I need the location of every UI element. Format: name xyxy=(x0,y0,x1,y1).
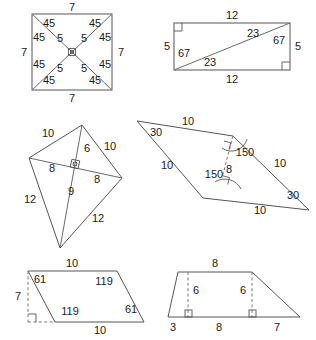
figure-trapezoid-with-heights: 8 6 6 3 8 7 xyxy=(168,257,300,333)
square-angle-bottom-right-b-label: 45 xyxy=(89,74,101,86)
parallelogram-angle-top-right-label: 119 xyxy=(95,275,113,287)
trapezoid-height-right-label: 6 xyxy=(240,284,246,296)
figure-parallelogram-with-height: 10 10 7 61 119 119 61 xyxy=(15,257,144,336)
kite-side-upper-right-label: 10 xyxy=(104,140,116,152)
rhombus-side-right-label: 10 xyxy=(274,157,286,169)
kite-diagonal-upper-label: 6 xyxy=(84,142,90,154)
figure-kite-with-diagonals: 10 10 12 12 6 9 8 8 xyxy=(24,125,122,248)
kite-diagonal-right-label: 8 xyxy=(94,173,100,185)
square-angle-top-left-a-label: 45 xyxy=(43,17,55,29)
rectangle-angle-bottom-upper-label: 67 xyxy=(178,47,190,59)
square-side-bottom-label: 7 xyxy=(69,92,75,104)
square-angle-bottom-left-b-label: 45 xyxy=(43,74,55,86)
parallelogram-side-top-label: 10 xyxy=(66,257,78,269)
square-angle-bottom-right-a-label: 45 xyxy=(99,58,111,70)
rhombus-side-bottom-label: 10 xyxy=(254,204,266,216)
square-half-diagonal-top-right-label: 5 xyxy=(81,32,87,44)
rectangle-side-top-label: 12 xyxy=(226,9,238,21)
rhombus-side-top-label: 10 xyxy=(182,115,194,127)
square-half-diagonal-bottom-left-label: 5 xyxy=(57,62,63,74)
trapezoid-side-top-label: 8 xyxy=(212,257,218,269)
rhombus-side-left-label: 10 xyxy=(161,159,173,171)
parallelogram-side-bottom-label: 10 xyxy=(94,324,106,336)
trapezoid-base-right-segment-label: 7 xyxy=(274,321,280,333)
square-half-diagonal-top-left-label: 5 xyxy=(57,32,63,44)
trapezoid-base-middle-segment-label: 8 xyxy=(216,321,222,333)
rhombus-height-label: 8 xyxy=(226,163,232,175)
square-half-diagonal-bottom-right-label: 5 xyxy=(81,62,87,74)
square-angle-top-right-a-label: 45 xyxy=(89,17,101,29)
square-angle-top-right-b-label: 45 xyxy=(99,31,111,43)
figure-rhombus-with-height: 10 10 10 10 30 30 150 150 8 xyxy=(137,115,309,216)
rhombus-angle-right-label: 30 xyxy=(287,189,299,201)
geometry-figures-svg: 7 7 7 7 45 45 45 45 5 5 5 5 45 45 45 45 … xyxy=(0,0,316,340)
square-side-top-label: 7 xyxy=(69,1,75,13)
figure-square-with-diagonals: 7 7 7 7 45 45 45 45 5 5 5 5 45 45 45 45 xyxy=(21,1,124,104)
square-angle-top-left-b-label: 45 xyxy=(33,31,45,43)
rectangle-angle-top-lower-label: 67 xyxy=(273,34,285,46)
figure-rectangle-with-diagonal: 12 12 5 5 23 67 67 23 xyxy=(164,9,301,85)
rhombus-angle-left-label: 30 xyxy=(150,126,162,138)
kite-diagonal-left-label: 8 xyxy=(49,162,55,174)
rectangle-angle-bottom-lower-label: 23 xyxy=(204,56,216,68)
rectangle-side-bottom-label: 12 xyxy=(226,73,238,85)
worksheet-canvas: 7 7 7 7 45 45 45 45 5 5 5 5 45 45 45 45 … xyxy=(0,0,316,340)
kite-side-lower-right-label: 12 xyxy=(92,212,104,224)
parallelogram-right-angle-marker xyxy=(28,314,36,322)
parallelogram-angle-top-left-label: 61 xyxy=(34,273,46,285)
kite-diagonal-lower-label: 9 xyxy=(68,185,74,197)
kite-side-lower-left-label: 12 xyxy=(24,193,36,205)
rhombus-angle-upper-label: 150 xyxy=(236,146,254,158)
parallelogram-height-label: 7 xyxy=(15,290,21,302)
square-side-right-label: 7 xyxy=(118,46,124,58)
parallelogram-angle-bottom-right-label: 61 xyxy=(125,303,137,315)
trapezoid-height-left-label: 6 xyxy=(193,284,199,296)
trapezoid-base-left-segment-label: 3 xyxy=(170,321,176,333)
square-side-left-label: 7 xyxy=(21,46,27,58)
rectangle-side-right-label: 5 xyxy=(295,40,301,52)
parallelogram-angle-bottom-left-label: 119 xyxy=(61,305,79,317)
rectangle-side-left-label: 5 xyxy=(164,40,170,52)
square-angle-bottom-left-a-label: 45 xyxy=(33,58,45,70)
rectangle-angle-top-upper-label: 23 xyxy=(247,27,259,39)
rhombus-angle-lower-label: 150 xyxy=(205,168,223,180)
kite-side-upper-left-label: 10 xyxy=(42,127,54,139)
